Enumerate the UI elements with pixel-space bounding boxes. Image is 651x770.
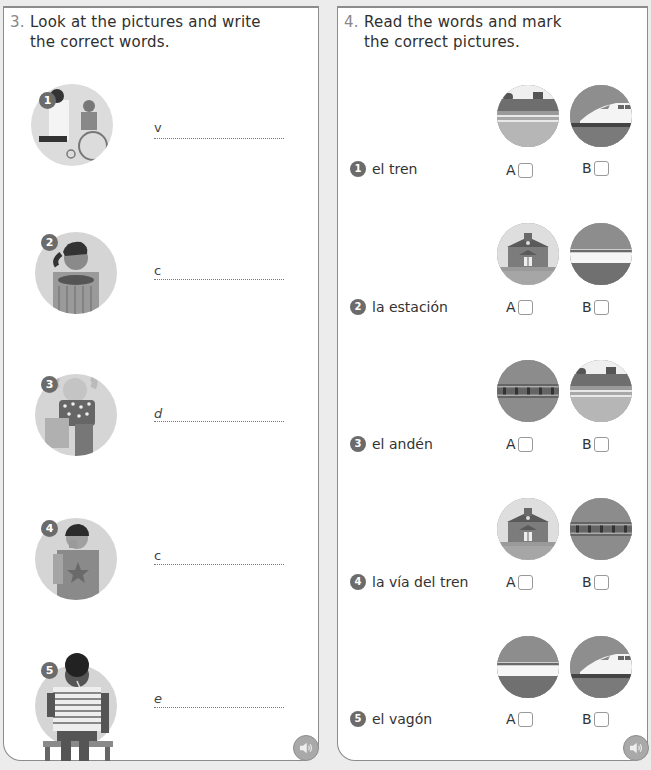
option-letter: B	[582, 299, 592, 315]
option-b[interactable]: B	[582, 160, 609, 176]
instruction-line-2: the correct words.	[10, 32, 261, 52]
option-letter: A	[506, 574, 516, 590]
instruction-line-2: the correct pictures.	[344, 32, 562, 52]
checkbox-b[interactable]	[594, 575, 609, 590]
option-a[interactable]: A	[506, 436, 533, 452]
railway-track-picture	[570, 498, 632, 560]
item-number-badge: 2	[350, 299, 366, 315]
instruction-line-1: Look at the pictures and write	[30, 13, 261, 31]
station-building-picture	[497, 498, 559, 560]
item-number-badge: 3	[41, 376, 58, 393]
item-number-badge: 1	[39, 92, 56, 109]
item-number-badge: 3	[350, 436, 366, 452]
instruction-line-1: Read the words and mark	[364, 13, 562, 31]
item-number-badge: 1	[350, 161, 366, 177]
option-letter: B	[582, 160, 592, 176]
platform-picture	[570, 360, 632, 422]
option-letter: A	[506, 299, 516, 315]
high-speed-train-picture	[570, 636, 632, 698]
option-b[interactable]: B	[582, 574, 609, 590]
speaker-icon	[297, 739, 315, 757]
exercise-3-panel: 3.Look at the pictures and write the cor…	[3, 6, 319, 761]
exercise-number: 4.	[344, 12, 364, 32]
option-letter: A	[506, 711, 516, 727]
item-number-badge: 4	[350, 574, 366, 590]
item-number-badge: 5	[350, 711, 366, 727]
railway-track-picture	[497, 360, 559, 422]
option-b[interactable]: B	[582, 436, 609, 452]
checkbox-a[interactable]	[518, 437, 533, 452]
option-letter: A	[506, 162, 516, 178]
option-letter: B	[582, 436, 592, 452]
checkbox-b[interactable]	[594, 161, 609, 176]
exercise-4-panel: 4.Read the words and mark the correct pi…	[337, 6, 648, 761]
option-letter: B	[582, 711, 592, 727]
checkbox-b[interactable]	[594, 712, 609, 727]
checkbox-a[interactable]	[518, 712, 533, 727]
audio-play-button[interactable]	[623, 735, 649, 761]
train-carriage-picture	[570, 223, 632, 285]
option-a[interactable]: A	[506, 574, 533, 590]
word-text: el vagón	[372, 711, 432, 727]
checkbox-a[interactable]	[518, 163, 533, 178]
answer-line-3[interactable]	[154, 421, 284, 422]
checkbox-b[interactable]	[594, 300, 609, 315]
option-letter: A	[506, 436, 516, 452]
word-text: el tren	[372, 161, 417, 177]
word-text: la vía del tren	[372, 574, 468, 590]
item-number-badge: 2	[41, 234, 58, 251]
checkbox-a[interactable]	[518, 575, 533, 590]
letter-hint: e	[154, 691, 162, 706]
platform-picture	[497, 85, 559, 147]
item-number-badge: 4	[41, 520, 58, 537]
word-label: 1 el tren	[350, 161, 417, 177]
high-speed-train-picture	[570, 85, 632, 147]
word-label: 5 el vagón	[350, 711, 432, 727]
letter-hint: c	[154, 263, 161, 278]
train-carriage-picture	[497, 636, 559, 698]
word-label: 2 la estación	[350, 299, 448, 315]
audio-play-button[interactable]	[293, 735, 319, 761]
speaker-icon	[627, 739, 645, 757]
option-letter: B	[582, 574, 592, 590]
exercise-3-instruction: 3.Look at the pictures and write the cor…	[10, 12, 261, 52]
item-number-badge: 5	[41, 662, 58, 679]
answer-line-1[interactable]	[154, 138, 284, 139]
exercise-4-instruction: 4.Read the words and mark the correct pi…	[344, 12, 562, 52]
letter-hint: c	[154, 548, 161, 563]
option-b[interactable]: B	[582, 299, 609, 315]
letter-hint: v	[154, 120, 162, 135]
exercise-number: 3.	[10, 12, 30, 32]
checkbox-b[interactable]	[594, 437, 609, 452]
word-label: 4 la vía del tren	[350, 574, 468, 590]
answer-line-2[interactable]	[154, 279, 284, 280]
option-a[interactable]: A	[506, 162, 533, 178]
letter-hint: d	[154, 406, 162, 421]
station-building-picture	[497, 223, 559, 285]
option-b[interactable]: B	[582, 711, 609, 727]
word-text: el andén	[372, 436, 433, 452]
option-a[interactable]: A	[506, 711, 533, 727]
word-text: la estación	[372, 299, 448, 315]
checkbox-a[interactable]	[518, 300, 533, 315]
word-label: 3 el andén	[350, 436, 433, 452]
option-a[interactable]: A	[506, 299, 533, 315]
answer-line-5[interactable]	[154, 707, 284, 708]
answer-line-4[interactable]	[154, 564, 284, 565]
